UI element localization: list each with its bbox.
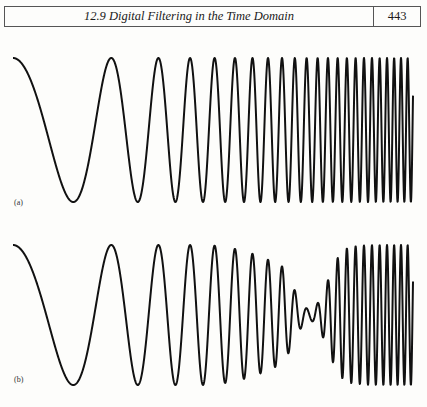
filtered-waveform-b [13, 245, 413, 385]
chirp-plot-a [0, 0, 427, 407]
panel-label-a: (a) [14, 198, 23, 207]
panel-label-b: (b) [14, 375, 23, 384]
chirp-waveform-a [13, 58, 413, 202]
